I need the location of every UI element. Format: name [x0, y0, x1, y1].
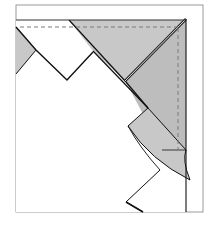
- origami-diagram: [0, 0, 217, 229]
